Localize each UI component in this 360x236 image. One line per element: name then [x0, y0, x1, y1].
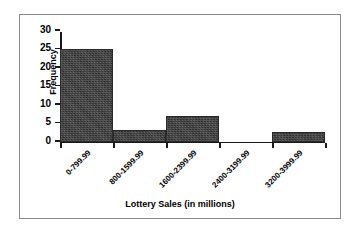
x-tick-boundary-1: [113, 143, 115, 148]
y-tick-30: 30: [55, 29, 60, 31]
x-tick-boundary-3: [219, 143, 221, 148]
x-tick-label-2: 800-1599.99: [108, 149, 145, 186]
x-tick-label-4: 2400-3199.99: [211, 149, 252, 190]
x-axis-title: Lottery Sales (in millions): [20, 199, 340, 209]
x-tick-boundary-4: [272, 143, 274, 148]
y-tick-label-30: 30: [40, 25, 51, 35]
bar-bin-1: [60, 49, 113, 142]
y-tick-label-5: 5: [45, 117, 51, 127]
y-tick-label-15: 15: [40, 80, 51, 90]
x-tick-label-5: 3200-3999.99: [264, 149, 305, 190]
chart-frame: Frequency 0 5 10 15 20 25: [19, 14, 341, 219]
x-tick-boundary-2: [166, 143, 168, 148]
bar-bin-5: [272, 132, 325, 141]
x-axis-line: [60, 142, 325, 144]
plot-area: 0 5 10 15 20 25 30: [60, 32, 325, 143]
y-tick-label-20: 20: [40, 62, 51, 72]
y-tick-label-25: 25: [40, 43, 51, 53]
x-tick-boundary-0: [60, 143, 62, 148]
y-tick-label-0: 0: [45, 136, 51, 146]
bar-bin-3: [166, 116, 219, 142]
x-tick-label-1: 0-799.99: [64, 149, 92, 177]
histogram-figure: Frequency 0 5 10 15 20 25: [0, 0, 360, 236]
y-tick-label-10: 10: [40, 99, 51, 109]
bar-bin-2: [113, 130, 166, 141]
x-tick-label-3: 1600-2399.99: [158, 149, 199, 190]
x-tick-boundary-5: [325, 143, 327, 148]
